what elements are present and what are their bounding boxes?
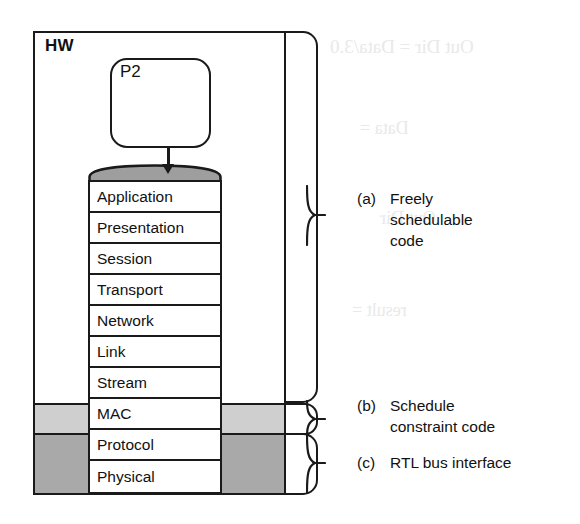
- hw-label: HW: [45, 36, 74, 56]
- protocol-stack: Application Presentation Session Transpo…: [88, 180, 222, 494]
- stack-layer-mac[interactable]: MAC: [90, 399, 220, 430]
- stack-layer-transport[interactable]: Transport: [90, 275, 220, 306]
- stack-layer-stream[interactable]: Stream: [90, 368, 220, 399]
- annotation-b-tag: (b): [357, 395, 390, 416]
- brace-a-icon: [306, 185, 326, 247]
- process-p2-label: P2: [120, 62, 141, 82]
- annotation-b: (b) Schedule constraint code: [357, 395, 495, 437]
- annotation-c: (c) RTL bus interface: [357, 452, 511, 473]
- stack-layer-presentation[interactable]: Presentation: [90, 213, 220, 244]
- arrow-head-icon: [162, 164, 174, 174]
- stack-layer-session[interactable]: Session: [90, 244, 220, 275]
- annotation-a-tag: (a): [357, 188, 390, 209]
- annotation-b-text: Schedule constraint code: [390, 395, 495, 437]
- annotation-a-text: Freely schedulable code: [390, 188, 473, 251]
- protocol-stack-figure: Out Dir = Data/3.0 Data = result = Out D…: [0, 0, 580, 524]
- annotation-c-text: RTL bus interface: [390, 452, 511, 473]
- stack-layer-application[interactable]: Application: [90, 182, 220, 213]
- bleed-through-text-3: result =: [352, 300, 407, 321]
- annotation-a: (a) Freely schedulable code: [357, 188, 473, 251]
- bleed-through-text-2: Data =: [360, 118, 409, 139]
- stack-layer-network[interactable]: Network: [90, 306, 220, 337]
- annotation-c-tag: (c): [357, 452, 390, 473]
- brace-c-icon: [306, 434, 326, 494]
- stack-layer-physical[interactable]: Physical: [90, 461, 220, 492]
- brace-b-icon: [306, 400, 326, 438]
- bleed-through-text-1: Out Dir = Data/3.0: [330, 36, 474, 58]
- stack-layer-protocol[interactable]: Protocol: [90, 430, 220, 461]
- stack-layer-link[interactable]: Link: [90, 337, 220, 368]
